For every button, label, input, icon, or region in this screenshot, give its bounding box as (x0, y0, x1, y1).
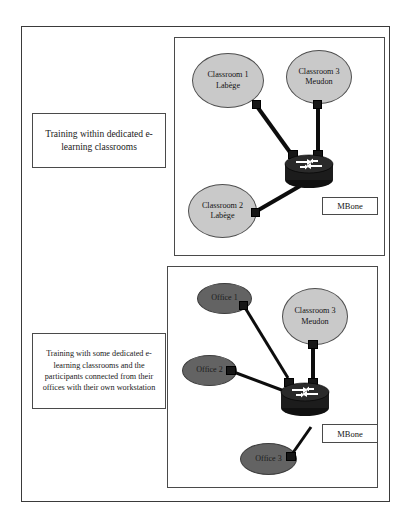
connector-square-icon-c3b (308, 340, 318, 349)
node-classroom-2-label: Classroom 2 Labège (200, 201, 245, 222)
connector-square-icon-o3 (286, 452, 296, 461)
caption-dedicated-classrooms: Training within dedicated e-learning cla… (32, 113, 166, 168)
node-classroom-3-top-label: Classroom 3 Meudon (296, 67, 341, 88)
connector-square-icon-c1 (252, 100, 261, 109)
caption-text: Training within dedicated e-learning cla… (33, 128, 165, 154)
node-classroom-3-top[interactable]: Classroom 3 Meudon (286, 50, 352, 104)
node-classroom-2[interactable]: Classroom 2 Labège (188, 184, 257, 238)
node-classroom-3-bottom[interactable]: Classroom 3 Meudon (282, 288, 348, 345)
connector-square-icon-o2 (226, 366, 236, 375)
mbone-label-top-text: MBone (337, 201, 363, 211)
node-classroom-1-label: Classroom 1 Labège (205, 70, 250, 91)
connector-square-icon-c2 (251, 208, 260, 217)
figure-root: Training within dedicated e-learning cla… (0, 0, 409, 525)
node-office-2-label: Office 2 (194, 365, 224, 376)
node-classroom-3-bottom-label: Classroom 3 Meudon (292, 306, 337, 327)
caption-mixed-classrooms-offices: Training with some dedicated e-learning … (32, 333, 166, 409)
node-office-1-label: Office 1 (209, 293, 239, 304)
node-office-3-label: Office 3 (253, 454, 283, 465)
mbone-label-top: MBone (322, 197, 378, 215)
mbone-label-bottom: MBone (322, 424, 378, 443)
caption-text: Training with some dedicated e-learning … (33, 348, 165, 394)
connector-square-icon-c3 (313, 100, 322, 109)
router-icon-top[interactable] (283, 154, 335, 190)
mbone-label-bottom-text: MBone (337, 429, 363, 439)
router-icon-bottom[interactable] (279, 382, 331, 418)
connector-square-icon-o1 (239, 301, 248, 310)
